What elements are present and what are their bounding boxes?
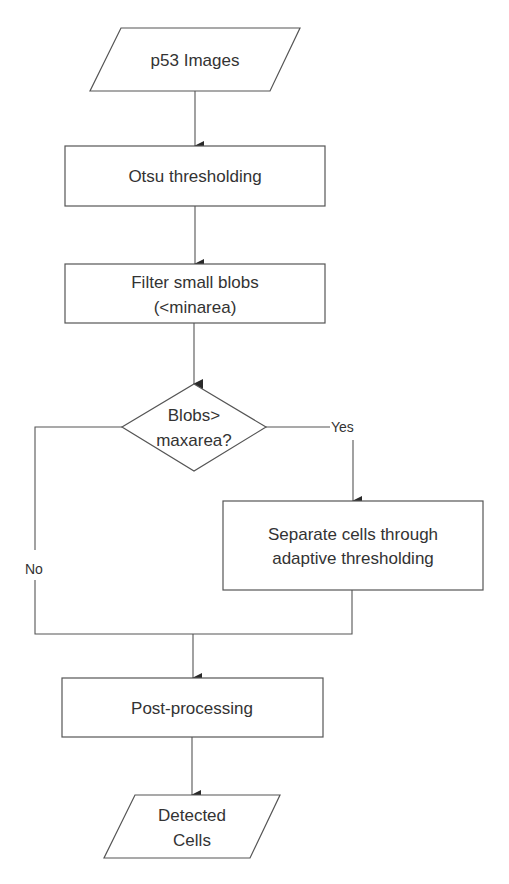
node-input-p53-images: p53 Images xyxy=(90,28,300,91)
flowchart: p53 Images Otsu thresholding Filter smal… xyxy=(0,0,509,884)
node-label-line2: maxarea? xyxy=(156,431,232,450)
edge-label-yes: Yes xyxy=(331,419,354,435)
rectangle-shape xyxy=(223,501,483,590)
node-label: Otsu thresholding xyxy=(128,167,261,186)
node-post-processing: Post-processing xyxy=(62,678,323,737)
node-separate-cells: Separate cells through adaptive threshol… xyxy=(223,501,483,590)
node-output-detected-cells: Detected Cells xyxy=(104,795,280,858)
edge-label-no: No xyxy=(25,561,43,577)
diamond-shape xyxy=(122,384,266,471)
node-label-line1: Separate cells through xyxy=(268,525,438,544)
node-label-line2: Cells xyxy=(173,831,211,850)
node-label-line1: Blobs> xyxy=(168,406,221,425)
node-label: Post-processing xyxy=(131,699,253,718)
node-label-line1: Filter small blobs xyxy=(131,273,259,292)
node-label-line1: Detected xyxy=(158,806,226,825)
node-label-line2: adaptive thresholding xyxy=(272,549,434,568)
node-label: p53 Images xyxy=(151,51,240,70)
edge-no-upper xyxy=(35,427,122,550)
node-filter-small-blobs: Filter small blobs (<minarea) xyxy=(65,264,325,323)
node-otsu-thresholding: Otsu thresholding xyxy=(65,146,325,206)
node-label-line2: (<minarea) xyxy=(154,298,237,317)
node-decision-blobs-maxarea: Blobs> maxarea? xyxy=(122,384,266,471)
